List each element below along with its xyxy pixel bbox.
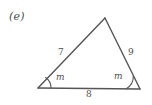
angle-arc-right xyxy=(126,76,133,89)
geometry-figure: (e) 7 9 8 m m xyxy=(0,0,152,105)
side-length-label-right: 9 xyxy=(128,48,134,57)
side-length-label-base: 8 xyxy=(86,90,92,99)
side-length-label-left: 7 xyxy=(58,48,64,57)
triangle-side-left xyxy=(38,18,105,88)
angle-label-right: m xyxy=(114,72,123,81)
angle-label-left: m xyxy=(56,73,65,82)
